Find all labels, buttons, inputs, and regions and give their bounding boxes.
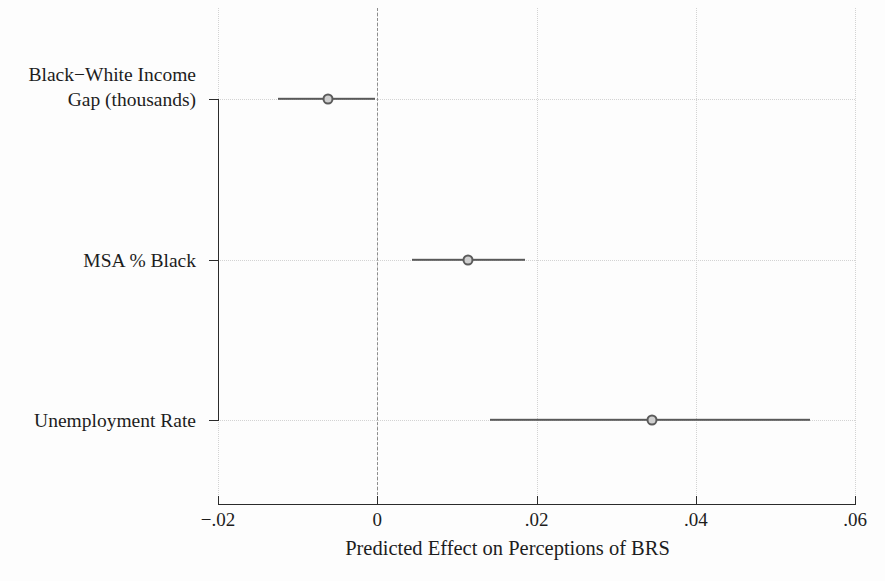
x-axis-title: Predicted Effect on Perceptions of BRS — [0, 535, 885, 561]
x-axis-tick-02 — [537, 496, 538, 505]
zero-reference-line — [377, 8, 378, 495]
gridline-vertical-04 — [696, 8, 697, 495]
gridline-vertical-02 — [537, 8, 538, 495]
x-axis-ticklabel-06: .06 — [843, 508, 867, 532]
estimate-point-marker — [646, 415, 657, 426]
x-axis-ticklabel-0: 0 — [373, 508, 383, 532]
y-axis-line — [218, 99, 219, 421]
coefficient-plot-figure: Black−White Income Gap (thousands) MSA %… — [0, 0, 885, 581]
estimate-point-marker — [463, 255, 474, 266]
x-axis-ticklabel-neg02: −.02 — [201, 508, 235, 532]
category-label-msa-pct-black: MSA % Black — [83, 248, 196, 273]
category-label-unemployment-rate: Unemployment Rate — [34, 408, 196, 433]
category-label-income-gap: Black−White Income Gap (thousands) — [29, 62, 196, 112]
y-axis-tick-msa-pct-black — [209, 260, 218, 261]
plot-area — [218, 8, 855, 495]
gridline-vertical-06 — [855, 8, 856, 495]
gridline-row-msa-pct-black — [218, 260, 855, 261]
estimate-point-marker — [322, 94, 333, 105]
x-axis-ticklabel-02: .02 — [525, 508, 549, 532]
x-axis-tick-0 — [377, 496, 378, 505]
x-axis-ticklabel-04: .04 — [684, 508, 708, 532]
y-axis-tick-unemployment-rate — [209, 420, 218, 421]
x-axis-tick-neg02 — [218, 496, 219, 505]
x-axis-tick-04 — [696, 496, 697, 505]
x-axis-tick-06 — [855, 496, 856, 505]
y-axis-tick-income-gap — [209, 99, 218, 100]
